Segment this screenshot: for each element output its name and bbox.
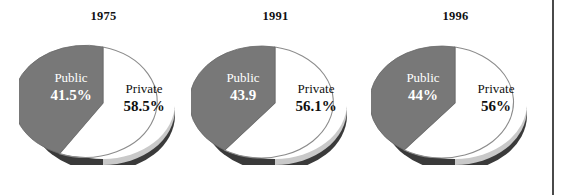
pie-svg-1991 (191, 33, 359, 183)
column-rule (552, 0, 554, 195)
year-label-1975: 1975 (11, 9, 196, 23)
pie-svg-1996 (371, 33, 539, 183)
pie-svg-1975 (19, 33, 187, 183)
year-label-1991: 1991 (183, 9, 368, 23)
pie-chart-1996: 1996 Public 44% (363, 0, 548, 195)
pie-graphic-1991: Public 43.9 Private 56.1% (191, 33, 359, 183)
pie-graphic-1996: Public 44% Private 56% (371, 33, 539, 183)
pie-chart-1991: 1991 Public 43.9 (183, 0, 368, 195)
year-label-1996: 1996 (363, 9, 548, 23)
pie-chart-figure: 1975 Public (0, 0, 570, 195)
pie-chart-1975: 1975 Public (11, 0, 196, 195)
pie-graphic-1975: Public 41.5% Private 58.5% (19, 33, 187, 183)
